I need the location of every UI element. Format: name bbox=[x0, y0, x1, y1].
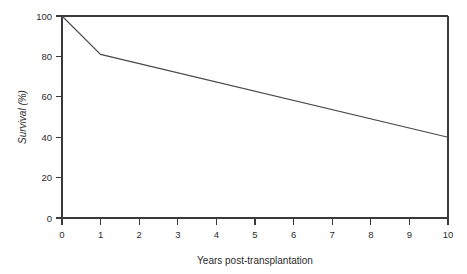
x-axis-title: Years post-transplantation bbox=[197, 255, 313, 266]
y-tick-label: 60 bbox=[41, 91, 52, 102]
y-tick-label: 40 bbox=[41, 132, 52, 143]
survival-curve-chart: 100 80 60 40 20 0 0 1 2 3 4 bbox=[0, 0, 467, 274]
y-tick-label: 0 bbox=[47, 213, 52, 224]
x-tick-label: 10 bbox=[443, 229, 454, 240]
x-tick-label: 3 bbox=[175, 229, 180, 240]
y-tick-label: 100 bbox=[36, 11, 52, 22]
chart-background bbox=[0, 0, 467, 274]
x-tick-label: 2 bbox=[137, 229, 142, 240]
y-tick-label: 80 bbox=[41, 51, 52, 62]
x-tick-label: 0 bbox=[59, 229, 64, 240]
x-tick-label: 1 bbox=[98, 229, 103, 240]
y-tick-label: 20 bbox=[41, 172, 52, 183]
x-tick-label: 9 bbox=[407, 229, 412, 240]
y-axis-title: Survival (%) bbox=[17, 90, 28, 144]
x-tick-label: 8 bbox=[368, 229, 373, 240]
x-tick-label: 7 bbox=[330, 229, 335, 240]
x-tick-label: 5 bbox=[252, 229, 257, 240]
x-tick-label: 4 bbox=[214, 229, 219, 240]
x-tick-label: 6 bbox=[291, 229, 296, 240]
chart-page: 100 80 60 40 20 0 0 1 2 3 4 bbox=[0, 0, 467, 274]
